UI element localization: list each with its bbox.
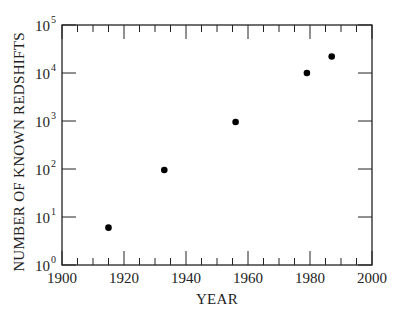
y-tick-base: 10 xyxy=(35,114,50,130)
x-tick-label: 1980 xyxy=(295,270,325,286)
data-point xyxy=(161,167,168,174)
x-axis-title: YEAR xyxy=(196,291,238,307)
x-tick-label: 1940 xyxy=(171,270,201,286)
x-tick-label: 1900 xyxy=(47,270,77,286)
y-tick-exponent: 3 xyxy=(51,110,56,121)
x-tick-label: 1960 xyxy=(233,270,263,286)
y-tick-base: 10 xyxy=(35,66,50,82)
y-tick-base: 10 xyxy=(35,18,50,34)
data-point xyxy=(232,119,239,126)
y-tick-base: 10 xyxy=(35,210,50,226)
data-points xyxy=(105,53,335,231)
y-tick-label: 103 xyxy=(35,110,56,130)
y-tick-label: 102 xyxy=(35,158,56,178)
y-tick-exponent: 5 xyxy=(51,14,56,25)
x-tick-label: 2000 xyxy=(357,270,387,286)
data-point xyxy=(328,53,335,60)
x-tick-label: 1920 xyxy=(109,270,139,286)
data-point xyxy=(304,70,311,77)
y-tick-exponent: 0 xyxy=(51,254,56,265)
y-axis-title: NUMBER OF KNOWN REDSHIFTS xyxy=(11,32,27,272)
scatter-chart: 190019201940196019802000 100101102103104… xyxy=(0,0,402,318)
y-tick-label: 101 xyxy=(35,206,56,226)
y-tick-label: 104 xyxy=(35,62,56,82)
y-tick-exponent: 2 xyxy=(51,158,56,169)
y-tick-exponent: 4 xyxy=(51,62,56,73)
y-tick-base: 10 xyxy=(35,258,50,274)
y-tick-label: 105 xyxy=(35,14,56,34)
y-tick-exponent: 1 xyxy=(51,206,56,217)
y-tick-base: 10 xyxy=(35,162,50,178)
x-axis-tick-labels: 190019201940196019802000 xyxy=(47,270,387,286)
y-axis-tick-labels: 100101102103104105 xyxy=(35,14,56,274)
data-point xyxy=(105,224,112,231)
